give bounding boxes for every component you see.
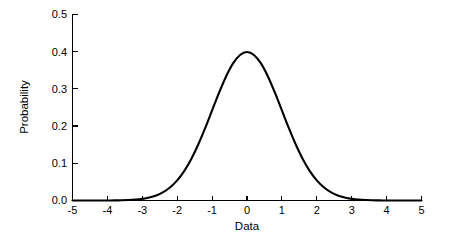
x-tick-label-5: 0 bbox=[244, 204, 250, 216]
y-tick-label-4: 0.4 bbox=[52, 46, 67, 58]
chart-figure: 0.0 0.1 0.2 0.3 0.4 0.5 -5 -4 -3 -2 -1 0… bbox=[0, 0, 453, 243]
x-tick-label-3: -2 bbox=[172, 204, 182, 216]
normal-distribution-plot: 0.0 0.1 0.2 0.3 0.4 0.5 -5 -4 -3 -2 -1 0… bbox=[0, 0, 453, 243]
y-tick-label-1: 0.1 bbox=[52, 157, 67, 169]
y-tick-label-0: 0.0 bbox=[52, 194, 67, 206]
x-tick-label-7: 2 bbox=[314, 204, 320, 216]
y-tick-label-2: 0.2 bbox=[52, 120, 67, 132]
x-axis-title: Data bbox=[235, 220, 260, 232]
y-axis-title: Probability bbox=[18, 80, 30, 134]
x-tick-label-9: 4 bbox=[384, 204, 390, 216]
x-tick-label-1: -4 bbox=[103, 204, 113, 216]
x-tick-label-2: -3 bbox=[137, 204, 147, 216]
x-tick-label-4: -1 bbox=[207, 204, 217, 216]
x-tick-label-8: 3 bbox=[349, 204, 355, 216]
y-tick-label-5: 0.5 bbox=[52, 8, 67, 20]
y-tick-label-3: 0.3 bbox=[52, 83, 67, 95]
x-tick-label-6: 1 bbox=[279, 204, 285, 216]
x-tick-label-10: 5 bbox=[418, 204, 424, 216]
x-tick-label-0: -5 bbox=[68, 204, 78, 216]
